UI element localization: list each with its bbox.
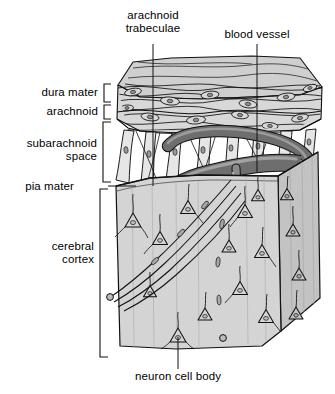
label-subarachnoid-space: subarachnoid space — [0, 137, 97, 163]
label-blood-vessel: blood vessel — [207, 28, 307, 41]
dura-top-face — [118, 56, 322, 99]
meninges-diagram-svg — [0, 0, 335, 394]
bracket-dura-mater — [104, 84, 111, 102]
label-pia-mater: pia mater — [0, 180, 74, 193]
dura-arachnoid-slab — [117, 56, 322, 134]
label-arachnoid-trabeculae: arachnoid trabeculae — [98, 9, 208, 35]
bracket-subarachnoid-space — [103, 122, 111, 182]
figure-canvas: arachnoid trabeculae blood vessel dura m… — [0, 0, 335, 394]
label-arachnoid: arachnoid — [0, 105, 98, 118]
label-dura-mater: dura mater — [0, 86, 98, 99]
label-neuron-cell-body: neuron cell body — [113, 370, 243, 383]
label-cerebral-cortex: cerebral cortex — [0, 240, 94, 266]
bracket-cerebral-cortex — [100, 189, 108, 357]
bracket-arachnoid — [104, 105, 111, 119]
cerebral-cortex-block — [107, 152, 320, 349]
brackets — [100, 84, 111, 357]
